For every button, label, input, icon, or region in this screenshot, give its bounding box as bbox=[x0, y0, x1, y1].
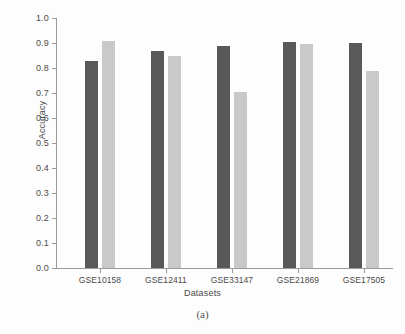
bar-group bbox=[349, 18, 379, 268]
bar bbox=[349, 43, 362, 268]
y-tick-mark bbox=[52, 143, 56, 144]
y-tick-mark bbox=[52, 43, 56, 44]
y-tick-mark bbox=[52, 193, 56, 194]
y-tick-label: 0.1 bbox=[36, 238, 49, 248]
bar bbox=[234, 92, 247, 268]
y-tick-mark bbox=[52, 118, 56, 119]
x-tick-label: GSE10158 bbox=[79, 275, 121, 285]
x-tick-mark bbox=[100, 269, 101, 273]
bar-group bbox=[151, 18, 181, 268]
x-tick-mark bbox=[364, 269, 365, 273]
x-tick-label: GSE33147 bbox=[211, 275, 253, 285]
y-tick-label: 1.0 bbox=[36, 13, 49, 23]
y-tick-mark bbox=[52, 68, 56, 69]
figure-panel-a: Accuracy 0.00.10.20.30.40.50.60.70.80.91… bbox=[0, 0, 405, 334]
x-tick-label: GSE12411 bbox=[145, 275, 187, 285]
figure-caption: (a) bbox=[0, 308, 405, 320]
x-tick-mark bbox=[298, 269, 299, 273]
y-tick-mark bbox=[52, 93, 56, 94]
y-axis-line bbox=[56, 18, 57, 269]
y-tick-label: 0.4 bbox=[36, 163, 49, 173]
x-tick-mark bbox=[166, 269, 167, 273]
bar bbox=[366, 71, 379, 269]
bar-group bbox=[217, 18, 247, 268]
x-tick-label: GSE17505 bbox=[343, 275, 385, 285]
bar bbox=[151, 51, 164, 269]
y-tick-mark bbox=[52, 243, 56, 244]
y-tick-label: 0.8 bbox=[36, 63, 49, 73]
y-tick-label: 0.9 bbox=[36, 38, 49, 48]
bar bbox=[217, 46, 230, 269]
x-axis-title: Datasets bbox=[0, 288, 405, 298]
x-tick-label: GSE21869 bbox=[277, 275, 319, 285]
y-tick-label: 0.2 bbox=[36, 213, 49, 223]
y-tick-label: 0.0 bbox=[36, 263, 49, 273]
y-tick-mark bbox=[52, 218, 56, 219]
bar bbox=[85, 61, 98, 269]
x-tick-mark bbox=[232, 269, 233, 273]
y-tick-label: 0.3 bbox=[36, 188, 49, 198]
y-tick-mark bbox=[52, 18, 56, 19]
x-axis-line bbox=[56, 268, 393, 269]
bar-group bbox=[283, 18, 313, 268]
bar bbox=[283, 42, 296, 268]
plot-area: 0.00.10.20.30.40.50.60.70.80.91.0 GSE101… bbox=[56, 18, 392, 268]
bar bbox=[102, 41, 115, 269]
y-tick-label: 0.5 bbox=[36, 138, 49, 148]
y-tick-label: 0.7 bbox=[36, 88, 49, 98]
y-tick-mark bbox=[52, 268, 56, 269]
bar bbox=[300, 44, 313, 268]
y-tick-mark bbox=[52, 168, 56, 169]
bar bbox=[168, 56, 181, 269]
y-tick-label: 0.6 bbox=[36, 113, 49, 123]
bar-group bbox=[85, 18, 115, 268]
